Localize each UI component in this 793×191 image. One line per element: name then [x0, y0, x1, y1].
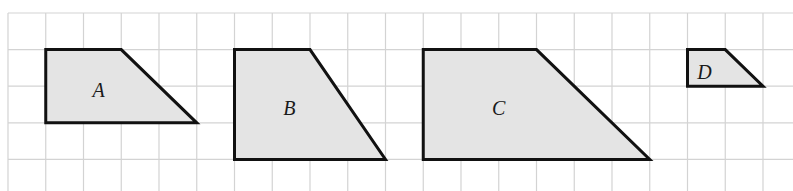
shape-b: B	[235, 50, 386, 160]
trapezoid-c	[423, 50, 650, 160]
shape-label-b: B	[283, 97, 295, 119]
shape-label-c: C	[492, 97, 506, 119]
shape-c: C	[423, 50, 650, 160]
shape-d: D	[688, 50, 764, 87]
shape-label-a: A	[90, 79, 105, 101]
trapezoid-b	[235, 50, 386, 160]
trapezoid-shapes: ABCD	[46, 50, 763, 160]
shape-label-d: D	[696, 61, 712, 83]
grid-diagram: ABCD	[0, 0, 793, 191]
